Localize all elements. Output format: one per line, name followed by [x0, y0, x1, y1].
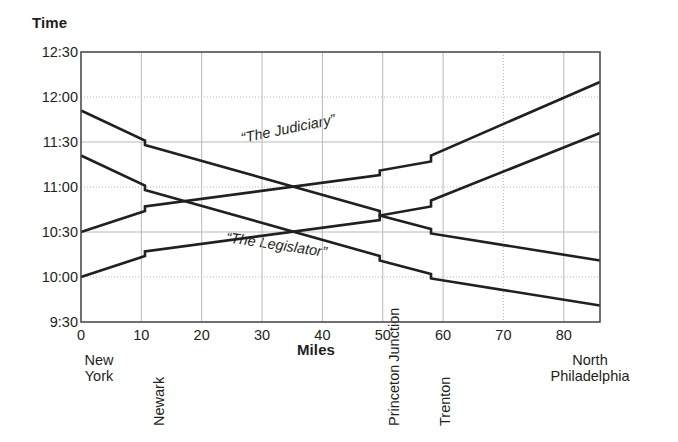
train-line-1 [81, 111, 600, 261]
train-lines [81, 82, 600, 306]
grid-lines [81, 52, 600, 322]
train-line-2 [81, 156, 600, 306]
chart-plot-area [0, 0, 678, 442]
chart-root: Time Miles 9:3010:0010:3011:0011:3012:00… [0, 0, 678, 442]
train-line-3 [81, 82, 600, 232]
